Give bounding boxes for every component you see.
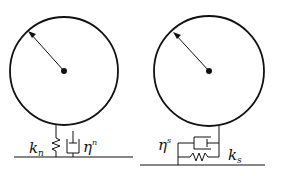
normal-contact-panel: kn ηn [10, 17, 133, 158]
tangential-contact-panel: ηs ks [140, 16, 265, 165]
kn-label: kn [29, 139, 44, 158]
ks-label: ks [228, 146, 242, 165]
left-arrow-head-icon [28, 31, 36, 38]
right-radius-arrow [175, 34, 209, 71]
left-radius-arrow [30, 33, 64, 71]
eta-n-label: ηn [83, 138, 97, 156]
normal-damper [67, 131, 79, 157]
normal-spring [52, 125, 60, 157]
tangential-spring-damper [178, 126, 219, 165]
right-arrow-head-icon [173, 32, 181, 39]
eta-s-label: ηs [158, 136, 171, 154]
contact-model-diagram: kn ηn ηs ks [0, 0, 281, 176]
